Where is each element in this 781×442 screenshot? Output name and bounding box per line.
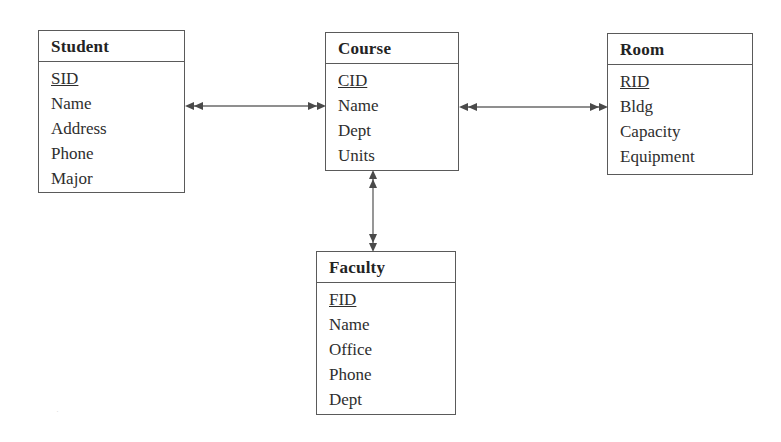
er-diagram-canvas: Student SID Name Address Phone Major Cou… — [0, 0, 781, 442]
entity-title-room: Room — [608, 34, 752, 65]
relationship-connector-course-room[interactable] — [459, 98, 608, 116]
entity-box-faculty[interactable]: Faculty FID Name Office Phone Dept — [316, 251, 456, 415]
relationship-connector-student-course[interactable] — [185, 97, 326, 115]
entity-title-faculty: Faculty — [317, 252, 455, 283]
entity-title-course: Course — [326, 33, 458, 64]
attribute-faculty-office: Office — [329, 337, 455, 362]
attribute-student-name: Name — [51, 91, 184, 116]
attribute-student-address: Address — [51, 116, 184, 141]
attribute-faculty-dept: Dept — [329, 387, 455, 412]
entity-attribute-list-faculty: FID Name Office Phone Dept — [317, 283, 455, 416]
attribute-room-bldg: Bldg — [620, 94, 752, 119]
entity-title-student: Student — [39, 31, 184, 62]
attribute-student-phone: Phone — [51, 141, 184, 166]
attribute-course-units: Units — [338, 143, 458, 168]
attribute-faculty-fid: FID — [329, 287, 455, 312]
scan-artifact-speck: · — [56, 408, 62, 414]
attribute-student-major: Major — [51, 166, 184, 191]
entity-box-course[interactable]: Course CID Name Dept Units — [325, 32, 459, 171]
attribute-room-capacity: Capacity — [620, 119, 752, 144]
entity-box-student[interactable]: Student SID Name Address Phone Major — [38, 30, 185, 193]
entity-attribute-list-student: SID Name Address Phone Major — [39, 62, 184, 195]
attribute-course-name: Name — [338, 93, 458, 118]
relationship-connector-course-faculty[interactable] — [364, 170, 382, 252]
attribute-faculty-phone: Phone — [329, 362, 455, 387]
entity-box-room[interactable]: Room RID Bldg Capacity Equipment — [607, 33, 753, 175]
entity-attribute-list-room: RID Bldg Capacity Equipment — [608, 65, 752, 174]
attribute-room-rid: RID — [620, 69, 752, 94]
attribute-course-dept: Dept — [338, 118, 458, 143]
attribute-room-equipment: Equipment — [620, 144, 752, 169]
attribute-student-sid: SID — [51, 66, 184, 91]
entity-attribute-list-course: CID Name Dept Units — [326, 64, 458, 172]
attribute-faculty-name: Name — [329, 312, 455, 337]
attribute-course-cid: CID — [338, 68, 458, 93]
